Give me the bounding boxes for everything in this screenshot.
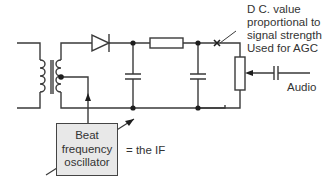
resistor-output-wire: [183, 43, 240, 57]
transformer-secondary-coil: [56, 43, 225, 108]
bfo-note: = the IF: [126, 144, 165, 157]
dc-annotation-line: signal strength: [247, 29, 322, 42]
potentiometer-symbol: [235, 57, 245, 90]
dc-annotation-line: proportional to: [247, 16, 322, 29]
center-tap-arrowhead: [85, 93, 91, 101]
primary-input-wire: [17, 43, 40, 60]
dc-annotation: D C. value proportional to signal streng…: [247, 3, 322, 55]
bfo-label-line: oscillator: [57, 156, 117, 170]
dc-annotation-line: Used for AGC: [247, 42, 322, 55]
center-tap-wire: [61, 77, 88, 123]
circuit-diagram: Beat frequency oscillator D C. value pro…: [0, 0, 331, 191]
capacitor-1: [125, 43, 141, 108]
coupling-capacitor: [250, 66, 310, 80]
bfo-label: Beat frequency oscillator: [57, 129, 117, 170]
bfo-label-line: Beat: [57, 129, 117, 143]
dc-annotation-leader: [220, 31, 236, 43]
junction-dot: [58, 74, 64, 80]
audio-label: Audio: [287, 81, 316, 94]
dc-annotation-line: D C. value: [247, 3, 322, 16]
tuning-arrowhead: [125, 119, 134, 126]
bfo-label-line: frequency: [57, 143, 117, 157]
capacitor-2: [190, 43, 206, 108]
wiper-arrowhead: [245, 70, 253, 76]
bfo-block: Beat frequency oscillator: [56, 123, 118, 176]
potentiometer-ground-wire: [198, 90, 240, 108]
transformer-primary-coil: [17, 60, 45, 108]
diode-symbol: [92, 34, 109, 52]
resistor-symbol: [150, 38, 183, 48]
